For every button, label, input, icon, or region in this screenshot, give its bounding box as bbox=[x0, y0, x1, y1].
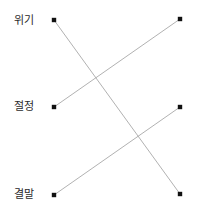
right-node-point[interactable] bbox=[178, 17, 182, 21]
connection-line[interactable] bbox=[54, 19, 180, 107]
left-node-point[interactable] bbox=[52, 18, 56, 22]
right-node-point[interactable] bbox=[178, 192, 182, 196]
stage-label: 위기 bbox=[14, 14, 34, 27]
left-node-point[interactable] bbox=[52, 193, 56, 197]
matching-diagram: 위기절정결말 bbox=[0, 0, 199, 214]
left-node-group bbox=[52, 18, 56, 197]
right-node-group bbox=[178, 17, 182, 196]
left-node-point[interactable] bbox=[52, 105, 56, 109]
stage-label: 절정 bbox=[14, 100, 34, 113]
stage-label: 결말 bbox=[14, 188, 34, 201]
right-node-point[interactable] bbox=[178, 105, 182, 109]
connection-line[interactable] bbox=[54, 20, 180, 194]
connection-line-group bbox=[54, 19, 180, 195]
connection-line[interactable] bbox=[54, 107, 180, 195]
